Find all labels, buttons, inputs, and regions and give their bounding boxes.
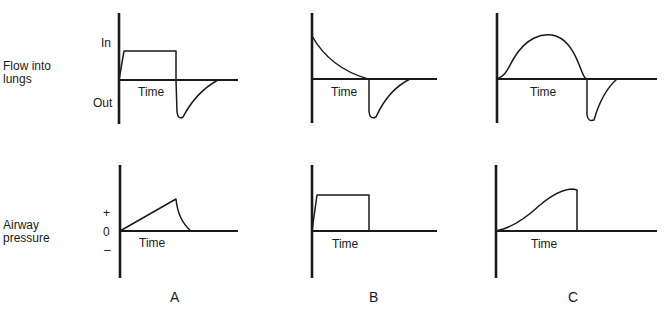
flow-row-label-line1: Flow into — [3, 59, 51, 73]
panel-b-pressure: Time — [312, 165, 437, 278]
panel-a-flow-time-label: Time — [138, 85, 165, 99]
panel-b-flow-time-label: Time — [331, 85, 358, 99]
pressure-row-label-line1: Airway — [3, 218, 39, 232]
panel-c-inspiratory-flow-curve — [497, 35, 587, 79]
panel-a-flow: Time — [119, 13, 238, 124]
panel-c-pressure-time-label: Time — [531, 237, 558, 251]
panel-a-pressure: Time — [120, 165, 238, 278]
panel-c-letter: C — [568, 289, 578, 305]
panel-b-pressure-curve — [312, 195, 369, 231]
pressure-minus-label: – — [104, 243, 111, 257]
panel-a-letter: A — [170, 289, 180, 305]
panel-b-expiratory-flow-curve — [369, 79, 410, 118]
panel-b-pressure-time-label: Time — [332, 237, 359, 251]
panel-c-expiratory-flow-curve — [587, 79, 617, 120]
panel-a-pressure-time-label: Time — [139, 236, 166, 250]
panel-a-inspiratory-flow-curve — [119, 51, 176, 80]
panel-c-flow: Time — [497, 13, 657, 123]
panel-b-inspiratory-flow-curve — [312, 36, 368, 79]
panel-a-pressure-curve — [120, 199, 191, 231]
pressure-plus-label: + — [103, 206, 110, 220]
pressure-row-label-line2: pressure — [3, 231, 50, 245]
flow-row-label-line2: lungs — [3, 72, 32, 86]
panel-b-letter: B — [369, 289, 378, 305]
ventilator-waveform-diagram: Flow into lungs Airway pressure In Out +… — [0, 0, 668, 310]
pressure-zero-label: 0 — [103, 225, 110, 239]
flow-in-label: In — [101, 36, 111, 50]
panel-c-flow-time-label: Time — [530, 85, 557, 99]
panel-c-pressure: Time — [496, 165, 657, 278]
panel-a-expiratory-flow-curve — [176, 80, 218, 118]
panel-c-pressure-curve — [496, 189, 577, 231]
panel-b-flow: Time — [312, 13, 437, 123]
flow-out-label: Out — [93, 96, 113, 110]
